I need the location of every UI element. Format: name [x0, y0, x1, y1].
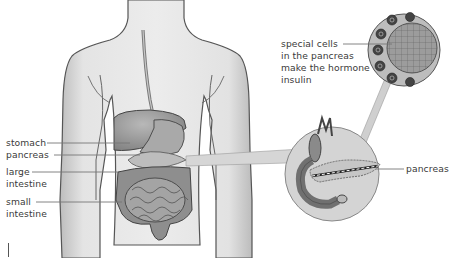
label-pancreas-body: pancreas	[6, 149, 49, 162]
label-pancreas-magnified: pancreas	[406, 163, 449, 176]
label-stomach: stomach	[6, 137, 46, 150]
label-special-cells-line3: make the hormone	[281, 62, 370, 75]
label-special-cells-line1: special cells	[281, 38, 338, 51]
label-large-intestine-line1: large	[6, 166, 30, 179]
islet-cells-magnified-callout	[368, 13, 440, 87]
label-small-intestine-line1: small	[6, 196, 31, 209]
label-small-intestine-line2: intestine	[6, 208, 47, 221]
label-special-cells-line4: insulin	[281, 74, 312, 87]
margin-marker	[8, 243, 9, 257]
label-special-cells-line2: in the pancreas	[281, 50, 354, 63]
label-large-intestine-line2: intestine	[6, 178, 47, 191]
